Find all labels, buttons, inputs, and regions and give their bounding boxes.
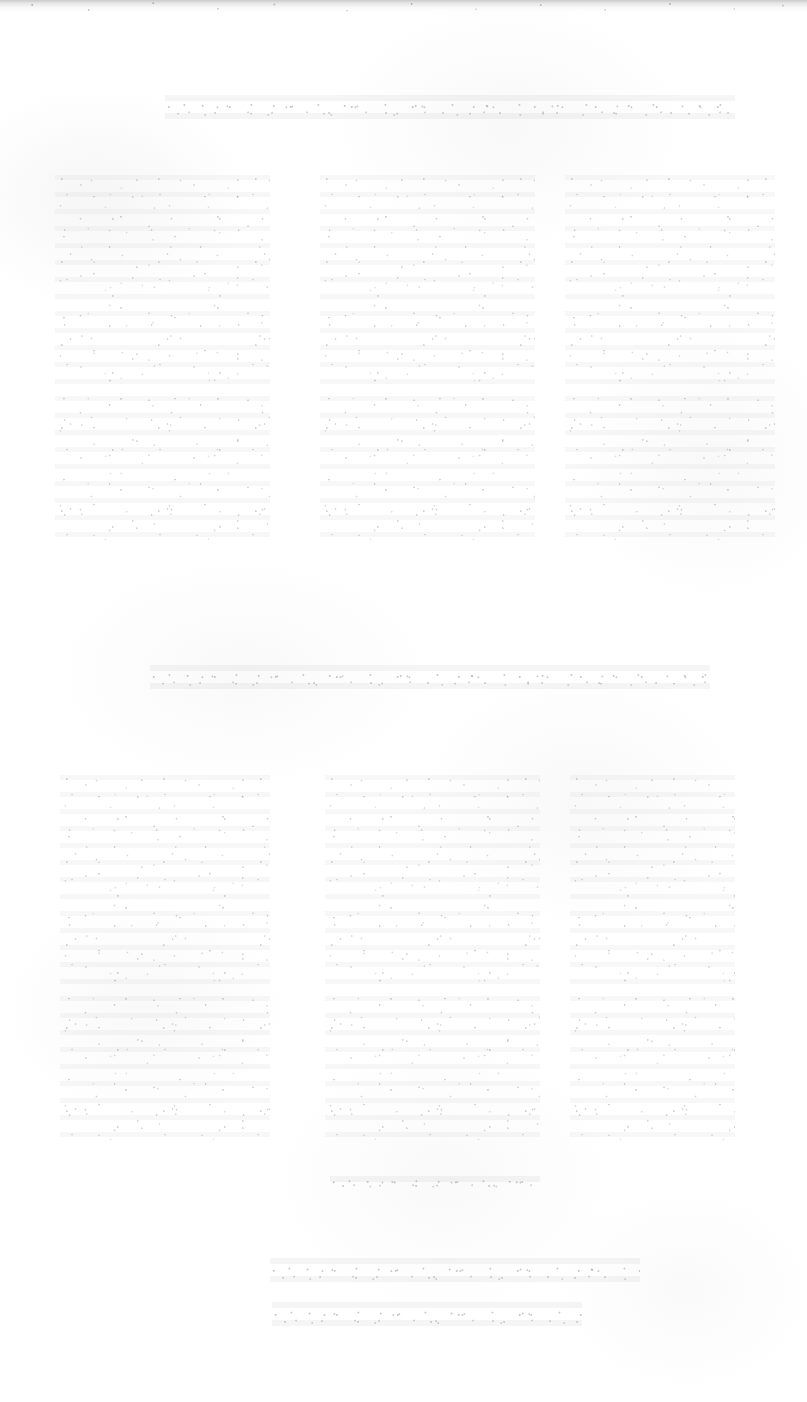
heading-lower-strokes — [150, 665, 710, 695]
lower-column-2-text — [325, 775, 540, 1140]
upper-column-3-strokes — [565, 175, 775, 545]
heading-lower — [150, 665, 710, 695]
lower-column-1-strokes — [60, 775, 270, 1140]
upper-column-3-grain — [565, 175, 775, 545]
scan-edge-band — [0, 0, 807, 16]
lower-column-2-grain — [325, 775, 540, 1140]
upper-column-1-text — [55, 175, 270, 545]
heading-lower-grain — [150, 665, 710, 695]
heading-lower-text — [150, 665, 710, 695]
lower-column-3 — [570, 775, 735, 1140]
lower-column-2 — [325, 775, 540, 1140]
upper-column-1-strokes — [55, 175, 270, 545]
footer-line-1-grain — [270, 1258, 640, 1290]
stray-line-text — [330, 1176, 540, 1192]
heading-upper-strokes — [165, 95, 735, 125]
stray-line — [330, 1176, 540, 1192]
footer-line-1-strokes — [270, 1258, 640, 1290]
document-page — [0, 0, 807, 1402]
lower-column-3-grain — [570, 775, 735, 1140]
heading-upper — [165, 95, 735, 125]
lower-column-3-strokes — [570, 775, 735, 1140]
footer-line-2 — [272, 1302, 582, 1334]
upper-column-2-text — [320, 175, 535, 545]
footer-line-2-text — [272, 1302, 582, 1334]
upper-column-1-grain — [55, 175, 270, 545]
footer-line-2-grain — [272, 1302, 582, 1334]
upper-column-2 — [320, 175, 535, 545]
upper-column-3 — [565, 175, 775, 545]
paper-texture — [0, 0, 807, 1402]
upper-column-3-text — [565, 175, 775, 545]
lower-column-2-strokes — [325, 775, 540, 1140]
upper-column-2-strokes — [320, 175, 535, 545]
lower-column-1-text — [60, 775, 270, 1140]
upper-column-1 — [55, 175, 270, 545]
lower-column-1 — [60, 775, 270, 1140]
footer-line-1-text — [270, 1258, 640, 1290]
stray-line-strokes — [330, 1176, 540, 1192]
heading-upper-text — [165, 95, 735, 125]
stray-line-grain — [330, 1176, 540, 1192]
heading-upper-grain — [165, 95, 735, 125]
lower-column-3-text — [570, 775, 735, 1140]
upper-column-2-grain — [320, 175, 535, 545]
footer-line-1 — [270, 1258, 640, 1290]
footer-line-2-strokes — [272, 1302, 582, 1334]
lower-column-1-grain — [60, 775, 270, 1140]
